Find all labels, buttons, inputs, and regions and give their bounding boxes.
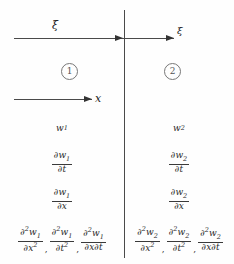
left-dw-dt-den-var: t [63, 164, 67, 174]
left-d2-dxdt-num-var: w [92, 228, 100, 238]
right-d2-dxdt-numerator: ∂2w2 [198, 227, 223, 242]
right-second-derivatives: ∂2w2 ∂x2 , ∂2w2 ∂t2 , ∂2w2 ∂x∂t [124, 226, 234, 254]
left-w-expression: w1 [0, 121, 124, 134]
left-dw-dt-num-var: w [58, 150, 66, 160]
left-d2-dx2-numerator: ∂2w1 [18, 226, 43, 241]
left-dw-dt-denominator: ∂t [56, 165, 68, 175]
right-d2-dt2-num-sub: 2 [185, 232, 189, 240]
left-d2-dt2-fraction: ∂2w1 ∂t2 [50, 226, 75, 253]
left-dw-dt-fraction: ∂w1 ∂t [52, 151, 73, 174]
x-axis-label: x [95, 93, 101, 104]
left-dw-dx-numerator: ∂w1 [52, 188, 73, 201]
right-dw-dx-num-sub: 2 [183, 192, 187, 200]
left-dw-dx-fraction: ∂w1 ∂x [52, 188, 73, 211]
right-dw-dt-num-var: w [175, 150, 183, 160]
right-d2-dx2-fraction: ∂2w2 ∂x2 [135, 226, 160, 253]
right-dw-dx-numerator: ∂w2 [169, 188, 190, 201]
right-d2-dxdt-num-sub: 2 [217, 233, 221, 241]
x-axis-shaft [14, 99, 92, 100]
left-dw-dt-num-sub: 1 [66, 155, 70, 163]
right-d2-dt2-fraction: ∂2w2 ∂t2 [167, 226, 192, 253]
right-dw-dt-num-sub: 2 [183, 155, 187, 163]
right-d2-dt2-denominator: ∂t2 [171, 242, 187, 254]
right-dw-dt-denominator: ∂t [173, 165, 185, 175]
right-d2-dx2-num-sub: 2 [154, 232, 158, 240]
left-d2-dxdt-fraction: ∂2w1 ∂x∂t [81, 227, 106, 252]
left-separator-1: , [44, 244, 49, 254]
left-dw-dx-expression: ∂w1 ∂x [0, 187, 124, 213]
right-dw-dx-expression: ∂w2 ∂x [124, 187, 234, 213]
left-d2-dx2-fraction: ∂2w1 ∂x2 [18, 226, 43, 253]
right-d2-dxdt-denominator: ∂x∂t [200, 243, 222, 253]
left-d2-dt2-num-sub: 1 [68, 232, 72, 240]
left-dw-dt-numerator: ∂w1 [52, 151, 73, 164]
left-d2-dx2-num-var: w [29, 227, 37, 237]
right-dw-dx-fraction: ∂w2 ∂x [169, 188, 190, 211]
right-d2-dt2-den-sup: 2 [181, 241, 185, 249]
right-d2-dx2-den-sup: 2 [150, 241, 154, 249]
right-dw-dt-numerator: ∂w2 [169, 151, 190, 164]
left-dw-dx-num-sub: 1 [66, 192, 70, 200]
right-dw-dx-denominator: ∂x [172, 202, 186, 212]
left-second-derivatives: ∂2w1 ∂x2 , ∂2w1 ∂t2 , ∂2w1 ∂x∂t [0, 226, 124, 254]
left-d2-dxdt-num-sub: 1 [100, 233, 104, 241]
right-separator-1: , [161, 244, 166, 254]
left-d2-dt2-denominator: ∂t2 [54, 242, 70, 254]
left-d2-dt2-numerator: ∂2w1 [50, 226, 75, 241]
right-dw-dx-den-var: x [179, 201, 184, 211]
left-d2-dxdt-den-var: x∂t [89, 242, 102, 252]
left-dw-dx-num-var: w [58, 187, 66, 197]
left-d2-dxdt-numerator: ∂2w1 [81, 227, 106, 242]
right-dw-dx-num-var: w [175, 187, 183, 197]
x-axis-head [84, 96, 92, 102]
interface-line [124, 10, 125, 258]
right-d2-dx2-denominator: ∂x2 [139, 242, 157, 254]
xi-label-left: ξ [52, 20, 58, 31]
xi-arrow-left-head [115, 35, 123, 41]
right-dw-dt-expression: ∂w2 ∂t [124, 150, 234, 176]
left-dw-dx-den-var: x [62, 201, 67, 211]
right-d2-dxdt-fraction: ∂2w2 ∂x∂t [198, 227, 223, 252]
xi-label-right: ξ [177, 26, 183, 36]
right-w-expression: w2 [124, 121, 234, 134]
xi-arrow-left-shaft [14, 38, 126, 39]
right-w-sub: 2 [181, 124, 185, 132]
region-marker-2: 2 [164, 63, 181, 80]
left-d2-dxdt-denominator: ∂x∂t [83, 243, 105, 253]
left-d2-dx2-denominator: ∂x2 [22, 242, 40, 254]
right-d2-dxdt-num-var: w [209, 228, 217, 238]
left-d2-dx2-den-sup: 2 [33, 241, 37, 249]
right-d2-dx2-numerator: ∂2w2 [135, 226, 160, 241]
region-marker-1: 1 [61, 63, 78, 80]
left-d2-dt2-den-sup: 2 [64, 241, 68, 249]
right-dw-dt-fraction: ∂w2 ∂t [169, 151, 190, 174]
right-dw-dt-den-var: t [180, 164, 184, 174]
left-dw-dx-denominator: ∂x [55, 202, 69, 212]
left-w-base: w [56, 123, 64, 133]
xi-arrow-right-head [166, 35, 174, 41]
right-d2-dxdt-den-var: x∂t [206, 242, 219, 252]
right-d2-dx2-num-var: w [146, 227, 154, 237]
right-d2-dt2-numerator: ∂2w2 [167, 226, 192, 241]
right-w-base: w [173, 123, 181, 133]
left-w-sub: 1 [64, 124, 68, 132]
right-separator-2: , [192, 244, 197, 254]
left-separator-2: , [75, 244, 80, 254]
figure-canvas: ξ ξ 1 2 x w1 w2 ∂w1 ∂t ∂w2 ∂t ∂w1 ∂x ∂ [0, 0, 234, 264]
left-dw-dt-expression: ∂w1 ∂t [0, 150, 124, 176]
left-d2-dx2-num-sub: 1 [37, 232, 41, 240]
